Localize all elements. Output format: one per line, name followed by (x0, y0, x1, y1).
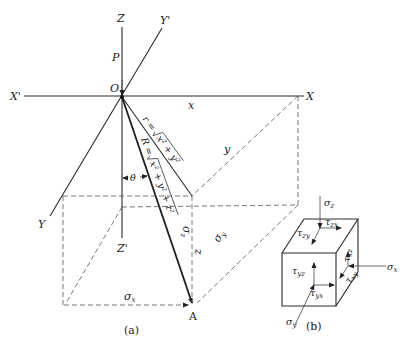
tau-yz-label: τyz (292, 265, 305, 278)
x-pos-label: X (305, 90, 315, 103)
construction-lines (63, 96, 298, 305)
tau-xz-label: τxz (341, 249, 354, 262)
caption-b: (b) (306, 320, 322, 333)
x-dim-label: x (188, 99, 195, 112)
tau-zy-label: τzy (297, 227, 311, 240)
figure-b: σz τzx τzy σx τxz τxy σy τyz τyx (b) (282, 196, 398, 333)
x-neg-label: X' (9, 90, 21, 103)
load-label: P (111, 51, 120, 64)
sigma-x-label-a: σx (124, 290, 136, 304)
point-a-label: A (188, 310, 198, 323)
sigma-y-label: σy (286, 316, 298, 329)
origin-label: O (110, 82, 119, 95)
y-dim-label: y (223, 143, 231, 156)
z-pos-label: Z (116, 12, 125, 25)
theta-arrow-right (140, 176, 147, 177)
svg-text:σy: σy (210, 227, 228, 245)
caption-a: (a) (124, 324, 139, 337)
sigma-y-label-a: σy (210, 227, 228, 245)
svg-text:r =: r = (140, 114, 158, 133)
figure-a: X' X Z P O Z' Y' Y r = x² + y² R = x² (9, 12, 315, 337)
z-dim-label: z (192, 248, 205, 255)
stress-diagram: X' X Z P O Z' Y' Y r = x² + y² R = x² (0, 0, 405, 344)
sigma-z-label: σz (324, 197, 335, 210)
y-neg-label: Y (38, 218, 47, 231)
y-pos-label: Y' (160, 14, 170, 27)
sigma-z-label-a: σz (179, 226, 193, 238)
R-line (122, 97, 192, 303)
tau-yx-label: τyx (310, 287, 323, 300)
tau-zx-label: τzx (325, 216, 338, 229)
origin-point (120, 95, 124, 99)
svg-text:σz: σz (179, 226, 193, 238)
z-neg-label: Z' (116, 242, 128, 255)
theta-label: θ (130, 172, 136, 183)
sigma-x-label: σx (387, 261, 398, 274)
cube-front-face (282, 253, 336, 306)
